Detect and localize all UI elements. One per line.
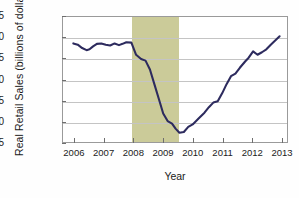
y-tick-mark-170: [62, 80, 66, 81]
x-tick-mark-2008: [133, 138, 134, 143]
y-tick-mark-155: [62, 143, 66, 144]
chart-figure: Real Retail Sales (billions of dollars) …: [0, 0, 299, 198]
x-axis-title: Year: [62, 170, 288, 182]
y-axis-title: Real Retail Sales (billions of dollars): [13, 6, 25, 156]
y-tick-label-155: 155: [0, 137, 4, 148]
y-tick-mark-165: [62, 101, 66, 102]
plot-inner: [63, 17, 287, 142]
y-tick-label-185: 185: [0, 10, 4, 21]
x-tick-mark-2013: [282, 138, 283, 143]
series-line-0: [73, 36, 279, 133]
x-tick-mark-2006: [74, 138, 75, 143]
plot-area: [62, 16, 288, 143]
x-tick-mark-2010: [193, 138, 194, 143]
y-tick-label-175: 175: [0, 52, 4, 63]
x-tick-mark-2007: [104, 138, 105, 143]
y-tick-mark-180: [62, 37, 66, 38]
y-tick-mark-160: [62, 122, 66, 123]
series-group: [63, 17, 287, 142]
x-tick-mark-2012: [252, 138, 253, 143]
x-tick-label-2013: 2013: [264, 147, 299, 158]
y-tick-label-165: 165: [0, 95, 4, 106]
y-tick-mark-185: [62, 16, 66, 17]
y-tick-label-160: 160: [0, 116, 4, 127]
y-tick-label-180: 180: [0, 31, 4, 42]
x-tick-mark-2011: [223, 138, 224, 143]
y-tick-label-170: 170: [0, 74, 4, 85]
x-tick-mark-2009: [163, 138, 164, 143]
y-tick-mark-175: [62, 58, 66, 59]
